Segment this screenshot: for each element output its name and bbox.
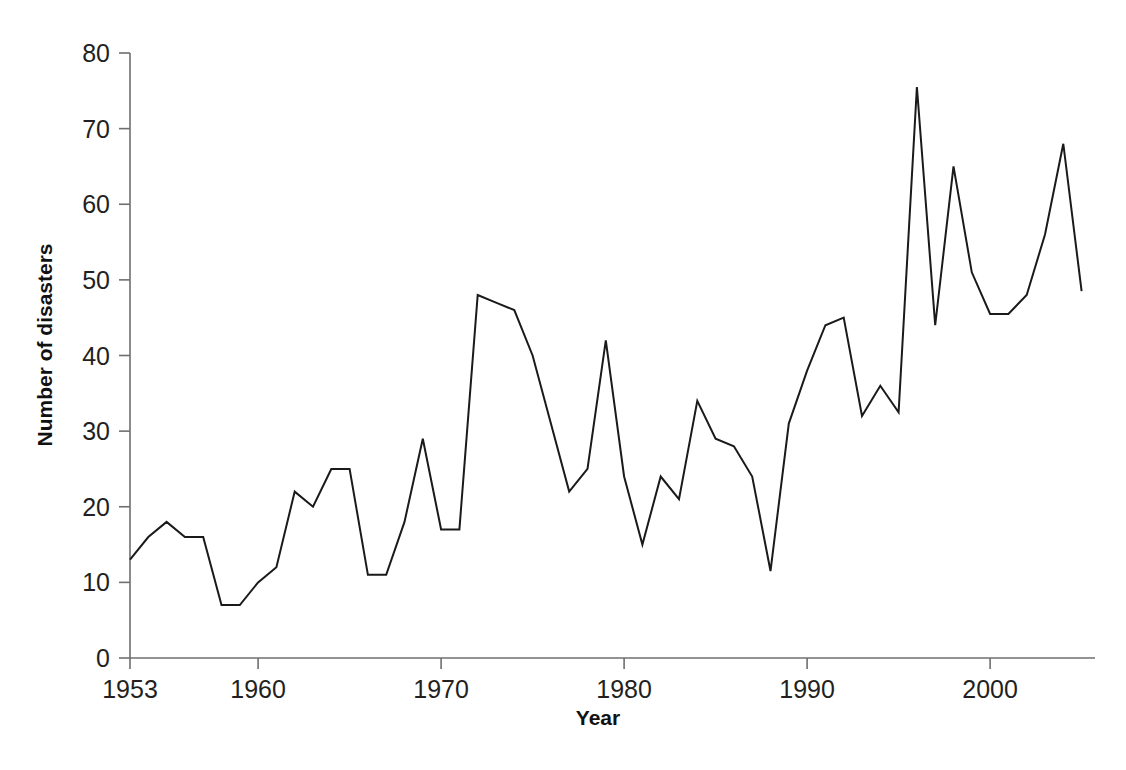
y-tick-label: 80 [82, 39, 110, 67]
x-tick-label: 1990 [779, 675, 835, 703]
y-tick-label: 50 [82, 266, 110, 294]
y-tick-label: 0 [96, 644, 110, 672]
y-axis-ticks: 01020304050607080 [82, 39, 130, 672]
x-tick-label: 1980 [596, 675, 652, 703]
y-tick-label: 60 [82, 190, 110, 218]
x-axis-title: Year [576, 706, 620, 729]
x-tick-label: 1953 [102, 675, 158, 703]
y-tick-label: 30 [82, 417, 110, 445]
y-tick-label: 70 [82, 115, 110, 143]
x-axis-ticks: 195319601970198019902000 [102, 658, 1018, 703]
y-tick-label: 40 [82, 342, 110, 370]
data-series-line [130, 87, 1082, 605]
x-tick-label: 2000 [962, 675, 1018, 703]
chart-container: 01020304050607080 1953196019701980199020… [0, 0, 1126, 770]
line-chart: 01020304050607080 1953196019701980199020… [0, 0, 1126, 770]
x-tick-label: 1970 [413, 675, 469, 703]
x-tick-label: 1960 [230, 675, 286, 703]
y-tick-label: 10 [82, 568, 110, 596]
y-axis-title: Number of disasters [33, 243, 56, 446]
y-tick-label: 20 [82, 493, 110, 521]
